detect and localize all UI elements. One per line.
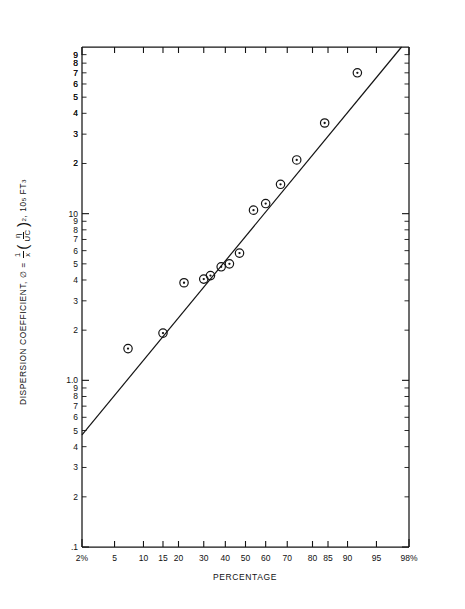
data-point [235,249,243,257]
data-point-center [220,266,222,268]
data-point-center [127,347,129,349]
x-tick-label: 95 [372,553,382,563]
y-tick-label: 7 [73,68,78,78]
x-tick-label: 50 [241,553,251,563]
data-point-center [183,282,185,284]
y-tick-label: 5 [73,426,78,436]
y-tick-label: 3 [73,462,78,472]
data-points [124,69,362,353]
y-tick-label: 7 [73,234,78,244]
y-tick-label: 10 [69,209,79,219]
y-tick-label: 5 [73,259,78,269]
x-axis-ticks [82,47,409,547]
x-tick-label: 70 [283,553,293,563]
data-point-center [228,263,230,265]
data-point [276,180,284,188]
data-point-center [238,252,240,254]
data-point-center [162,332,164,334]
y-tick-label: 4 [73,442,78,452]
x-tick-label: 90 [343,553,353,563]
y-tick-label: 3 [73,296,78,306]
x-tick-label: 2% [76,553,89,563]
data-point [293,156,301,164]
y-tick-label: 2 [73,325,78,335]
y-tick-label: 2 [73,492,78,502]
data-point [124,344,132,352]
y-tick-label: 8 [73,225,78,235]
y-tick-label: 4 [73,108,78,118]
data-point-center [296,159,298,161]
y-tick-label: 1.0 [66,375,78,385]
x-tick-label: 20 [174,553,184,563]
y-tick-label: 8 [73,391,78,401]
y-tick-label: 4 [73,275,78,285]
data-point [261,199,269,207]
x-axis-tick-labels: 2%510152030405060708085909598% [76,553,418,563]
x-tick-label: 85 [323,553,333,563]
x-tick-label: 30 [199,553,209,563]
x-tick-label: 40 [221,553,231,563]
y-axis-tick-labels: .1234567891.023456789102345678923456789 [66,50,78,552]
x-axis-title: PERCENTAGE [213,572,277,582]
x-tick-label: 98% [400,553,417,563]
y-tick-label: 6 [73,79,78,89]
x-tick-label: 80 [308,553,318,563]
dispersion-coefficient-probability-plot: .1234567891.023456789102345678923456789 … [0,0,465,609]
data-point-center [203,278,205,280]
y-tick-label: 8 [73,58,78,68]
y-tick-label: .1 [71,542,78,552]
y-tick-label: 3 [73,129,78,139]
data-point [225,260,233,268]
data-point-center [265,202,267,204]
x-tick-label: 5 [112,553,117,563]
x-tick-label: 60 [261,553,271,563]
data-point-center [209,274,211,276]
figure-container: .1234567891.023456789102345678923456789 … [0,0,465,609]
axes-frame [82,47,409,547]
data-point [180,279,188,287]
data-point-center [279,183,281,185]
y-tick-label: 5 [73,92,78,102]
x-tick-label: 10 [139,553,149,563]
data-point-center [356,72,358,74]
y-tick-label: 7 [73,401,78,411]
data-point [320,119,328,127]
x-tick-label: 15 [158,553,168,563]
y-tick-label: 6 [73,412,78,422]
data-point-center [324,122,326,124]
data-point [217,263,225,271]
y-tick-label: 6 [73,246,78,256]
data-point [249,206,257,214]
fit-line [82,47,402,435]
y-axis-ticks [82,55,409,547]
data-point [353,69,361,77]
y-tick-label: 9 [73,50,78,60]
regression-line [82,47,402,435]
data-point-center [252,209,254,211]
y-tick-label: 2 [73,158,78,168]
